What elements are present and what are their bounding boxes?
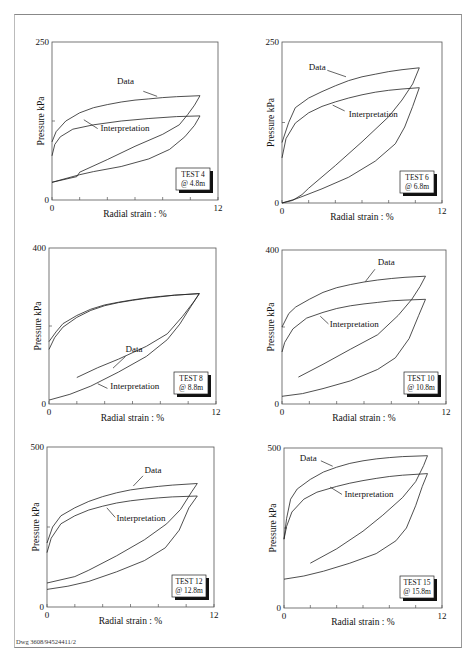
- chart-test6: 0120250Radial strain : %Pressure kPaData…: [266, 37, 447, 222]
- x-axis-label: Radial strain : %: [99, 616, 163, 626]
- leader-line: [321, 461, 333, 466]
- chart-test12: 0120500Radial strain : %Pressure kPaData…: [31, 442, 219, 626]
- y-tick-label-min: 0: [277, 603, 282, 613]
- annotation-interpretation: Interpretation: [100, 123, 149, 133]
- leader-line: [143, 91, 157, 96]
- test-label: TEST 12: [175, 577, 202, 586]
- depth-label: @ 12.8m: [175, 586, 203, 595]
- test-label: TEST 4: [181, 170, 205, 179]
- annotation-data: Data: [378, 257, 395, 267]
- y-tick-label-min: 0: [275, 399, 280, 409]
- y-tick-label-min: 0: [40, 602, 45, 612]
- leader-line: [333, 105, 345, 111]
- test-label: TEST 8: [179, 374, 203, 383]
- test-label: TEST 15: [403, 578, 430, 587]
- annotation-data: Data: [117, 76, 134, 86]
- chart-test10: 0120400Radial strain : %Pressure kPaData…: [266, 245, 451, 423]
- x-tick-label-max: 12: [214, 203, 223, 213]
- x-axis-label: Radial strain : %: [332, 413, 396, 423]
- y-tick-label-max: 500: [268, 443, 282, 453]
- leader-line: [327, 70, 346, 76]
- x-tick-label-min: 0: [47, 407, 52, 417]
- x-tick-label-max: 12: [212, 407, 221, 417]
- annotation-data: Data: [309, 62, 326, 72]
- x-tick-label-max: 12: [438, 611, 447, 621]
- leader-line: [113, 356, 126, 368]
- leader-line: [107, 508, 115, 518]
- leader-line: [98, 384, 108, 389]
- annotation-interpretation: Interpretation: [117, 513, 166, 523]
- x-tick-label-min: 0: [50, 203, 55, 213]
- x-tick-label-min: 0: [280, 407, 285, 417]
- x-tick-label-max: 12: [210, 610, 219, 620]
- leader-line: [133, 476, 143, 486]
- y-tick-label-min: 0: [42, 399, 47, 409]
- y-axis-label: Pressure kPa: [266, 97, 276, 147]
- y-axis-label: Pressure kPa: [31, 502, 41, 552]
- annotation-interpretation: Interpretation: [349, 109, 398, 119]
- leader-line: [320, 316, 328, 324]
- leader-line: [330, 487, 342, 494]
- annotation-data: Data: [300, 453, 317, 463]
- series-data: [47, 484, 197, 584]
- x-axis-label: Radial strain : %: [103, 209, 167, 219]
- y-axis-label: Pressure kPa: [268, 503, 278, 553]
- x-axis-label: Radial strain : %: [101, 413, 165, 423]
- drawing-reference: Dwg 3608/94524411/2: [16, 638, 76, 645]
- y-tick-label-min: 0: [45, 195, 50, 205]
- y-axis-label: Pressure kPa: [36, 96, 46, 146]
- series-data: [284, 456, 428, 564]
- y-tick-label-max: 400: [266, 245, 280, 255]
- x-axis-label: Radial strain : %: [331, 617, 395, 627]
- leader-line: [365, 269, 375, 281]
- y-tick-label-max: 250: [266, 37, 280, 47]
- annotation-interpretation: Interpretation: [330, 319, 379, 329]
- y-tick-label-max: 500: [31, 442, 45, 452]
- depth-label: @ 15.8m: [403, 587, 431, 596]
- annotation-data: Data: [126, 344, 143, 354]
- test-label: TEST 10: [407, 374, 434, 383]
- x-axis-label: Radial strain : %: [330, 212, 394, 222]
- annotation-interpretation: Interpretation: [110, 381, 159, 391]
- annotation-data: Data: [144, 465, 161, 475]
- y-tick-label-min: 0: [275, 198, 280, 208]
- annotation-interpretation: Interpretation: [345, 489, 394, 499]
- series-interpretation: [282, 88, 419, 203]
- depth-label: @ 4.8m: [181, 179, 205, 188]
- chart-test4: 0120250Radial strain : %Pressure kPaData…: [36, 37, 223, 219]
- series-data: [49, 294, 199, 378]
- y-tick-label-max: 400: [33, 243, 47, 253]
- x-tick-label-min: 0: [45, 610, 50, 620]
- x-tick-label-min: 0: [282, 611, 287, 621]
- x-tick-label-min: 0: [280, 206, 285, 216]
- plots-canvas: 0120250Radial strain : %Pressure kPaData…: [0, 0, 476, 656]
- depth-label: @ 8.8m: [179, 383, 203, 392]
- y-tick-label-max: 250: [36, 37, 50, 47]
- y-axis-label: Pressure kPa: [266, 302, 276, 352]
- test-label: TEST 6: [405, 173, 429, 182]
- y-axis-label: Pressure kPa: [33, 301, 43, 351]
- chart-test8: 0120400Radial strain : %Pressure kPaData…: [33, 243, 221, 423]
- depth-label: @ 10.8m: [407, 383, 435, 392]
- x-tick-label-max: 12: [442, 407, 451, 417]
- depth-label: @ 6.8m: [405, 182, 429, 191]
- x-tick-label-max: 12: [438, 206, 447, 216]
- chart-test15: 0120500Radial strain : %Pressure kPaData…: [268, 443, 447, 627]
- series-data: [282, 68, 419, 203]
